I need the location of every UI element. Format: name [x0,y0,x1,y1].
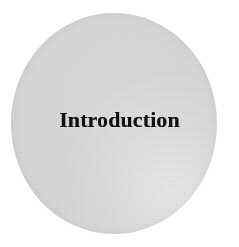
chapter-opener-page: Introduction [0,0,239,247]
chapter-title: Introduction [0,107,239,133]
